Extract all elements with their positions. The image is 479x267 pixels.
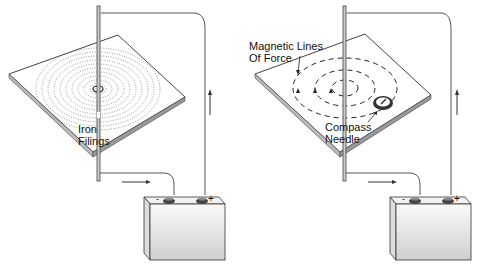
battery-right-pos: +	[454, 193, 460, 205]
battery-left	[144, 197, 225, 260]
magnetic-lines-label-2: Of Force	[249, 52, 292, 64]
battery-left-neg: -	[156, 193, 159, 205]
iron-filings-label-1: Iron	[78, 123, 97, 135]
battery-left-pos: +	[208, 193, 214, 205]
magnetic-lines-label-1: Magnetic Lines	[249, 40, 323, 52]
iron-filings-label-2: Filings	[78, 135, 110, 147]
conductor-rod-left	[97, 6, 100, 181]
battery-right-neg: -	[402, 193, 405, 205]
compass-label-2: Needle	[325, 133, 360, 145]
battery-right	[390, 197, 471, 260]
compass-needle	[373, 96, 393, 110]
diagram-canvas	[0, 0, 479, 267]
left-panel	[9, 6, 225, 260]
compass-label-1: Compass	[325, 121, 371, 133]
